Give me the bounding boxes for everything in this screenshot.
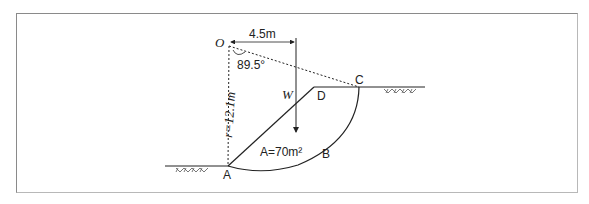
label-point-d: D xyxy=(317,89,326,103)
label-weight: W xyxy=(282,87,294,102)
label-angle: 89.5° xyxy=(237,58,265,72)
label-radius: r=12.1m xyxy=(220,91,238,138)
angle-arc xyxy=(233,50,245,55)
slope-diagram: O 4.5m 89.5° r=12.1m W A=70m² A B C D xyxy=(0,0,589,204)
label-moment-arm: 4.5m xyxy=(249,27,276,41)
label-center-o: O xyxy=(215,35,225,50)
label-point-c: C xyxy=(355,73,364,87)
ground-left-hatch xyxy=(176,168,208,172)
label-point-a: A xyxy=(223,168,231,182)
ground-right-hatch xyxy=(384,89,416,93)
label-area: A=70m² xyxy=(260,145,302,159)
label-point-b: B xyxy=(322,147,330,161)
